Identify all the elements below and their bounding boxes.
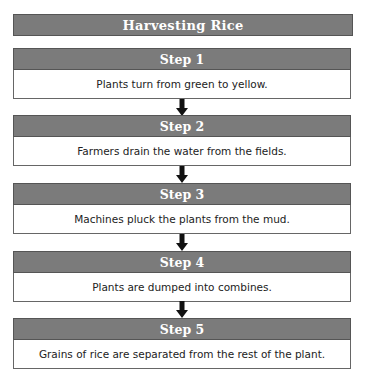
down-arrow-icon [176, 301, 188, 318]
step-3-text: Machines pluck the plants from the mud. [13, 205, 351, 234]
step-4-box: Step 4 Plants are dumped into combines. [13, 251, 351, 302]
step-3-box: Step 3 Machines pluck the plants from th… [13, 183, 351, 234]
step-4-header: Step 4 [13, 251, 351, 273]
step-5-header: Step 5 [13, 318, 351, 340]
step-5-box: Step 5 Grains of rice are separated from… [13, 318, 351, 369]
step-2-header: Step 2 [13, 115, 351, 137]
step-1-text: Plants turn from green to yellow. [13, 70, 351, 99]
step-1-box: Step 1 Plants turn from green to yellow. [13, 48, 351, 99]
step-5-text: Grains of rice are separated from the re… [13, 340, 351, 369]
down-arrow-icon [176, 99, 188, 116]
step-4-text: Plants are dumped into combines. [13, 273, 351, 302]
step-3-header: Step 3 [13, 183, 351, 205]
step-2-text: Farmers drain the water from the fields. [13, 137, 351, 166]
step-2-box: Step 2 Farmers drain the water from the … [13, 115, 351, 166]
diagram-title: Harvesting Rice [13, 14, 353, 36]
down-arrow-icon [176, 166, 188, 183]
down-arrow-icon [176, 234, 188, 251]
step-1-header: Step 1 [13, 48, 351, 70]
